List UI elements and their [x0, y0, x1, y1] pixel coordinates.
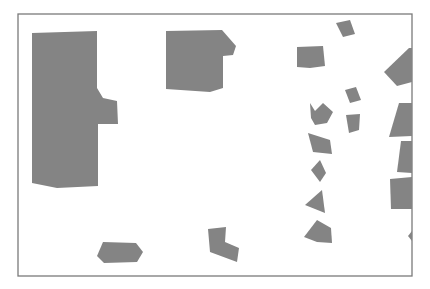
building-right-b — [389, 103, 412, 137]
building-bottom-hex — [97, 242, 143, 263]
map-canvas — [0, 0, 430, 289]
building-right-e — [408, 231, 412, 241]
building-mid-quad-a — [297, 46, 325, 68]
building-right-d — [390, 177, 412, 209]
building-layer — [32, 20, 412, 263]
building-small-c — [346, 114, 360, 133]
building-small-b — [345, 87, 361, 103]
building-upper-center — [166, 30, 236, 92]
building-right-a — [384, 48, 412, 86]
building-top-small-a — [336, 20, 355, 37]
building-tri-g — [304, 220, 332, 243]
building-bottom-L — [208, 227, 239, 262]
building-right-c — [397, 141, 412, 173]
building-large-left — [32, 31, 118, 188]
building-diamond-e — [311, 160, 326, 182]
building-quad-d — [308, 133, 332, 154]
building-tri-f — [305, 190, 325, 213]
building-star-shape — [310, 103, 333, 125]
